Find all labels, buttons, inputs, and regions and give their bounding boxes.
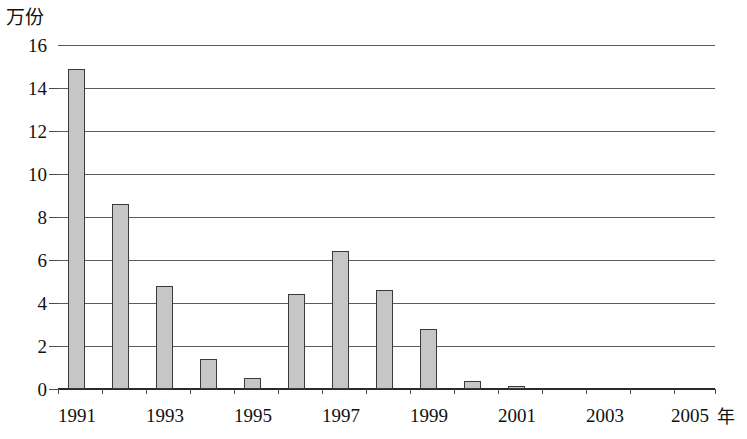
x-tick-label-1997: 1997 — [306, 405, 376, 427]
bar-1991 — [68, 69, 85, 389]
gridline-16 — [58, 45, 715, 46]
x-tick-mark-3 — [190, 389, 191, 394]
bar-1998 — [376, 290, 393, 389]
y-tick-label-14: 14 — [7, 79, 47, 98]
y-tick-mark-14 — [49, 88, 58, 89]
x-tick-mark-11 — [542, 389, 543, 394]
x-tick-mark-12 — [586, 389, 587, 394]
bar-2000 — [464, 381, 481, 389]
x-tick-label-2001: 2001 — [482, 405, 552, 427]
x-tick-mark-4 — [234, 389, 235, 394]
y-tick-mark-8 — [49, 217, 58, 218]
bar-1993 — [156, 286, 173, 389]
x-tick-mark-15 — [715, 389, 716, 394]
x-tick-label-1991: 1991 — [42, 405, 112, 427]
x-axis-unit-label: 年 — [717, 406, 735, 428]
bar-1992 — [112, 204, 129, 389]
x-tick-label-1995: 1995 — [218, 405, 288, 427]
y-tick-mark-12 — [49, 131, 58, 132]
x-tick-mark-7 — [366, 389, 367, 394]
x-tick-mark-0 — [58, 389, 59, 394]
x-tick-label-1993: 1993 — [130, 405, 200, 427]
bar-1996 — [288, 294, 305, 389]
x-tick-label-2003: 2003 — [570, 405, 640, 427]
x-tick-mark-10 — [498, 389, 499, 394]
plot-area — [58, 45, 715, 389]
x-tick-mark-2 — [146, 389, 147, 394]
bar-1994 — [200, 359, 217, 389]
gridline-12 — [58, 131, 715, 132]
bar-chart-figure: 万份 16 14 12 10 8 6 4 2 0 — [0, 0, 747, 439]
gridline-14 — [58, 88, 715, 89]
x-tick-label-2005: 2005 — [655, 405, 725, 427]
y-tick-label-8: 8 — [7, 208, 47, 227]
bar-1997 — [332, 251, 349, 389]
x-tick-mark-14 — [674, 389, 675, 394]
bar-1995 — [244, 378, 261, 389]
x-tick-label-1999: 1999 — [394, 405, 464, 427]
bar-2001 — [508, 386, 525, 389]
y-tick-label-16: 16 — [7, 36, 47, 55]
y-tick-mark-2 — [49, 346, 58, 347]
x-tick-mark-13 — [630, 389, 631, 394]
x-tick-mark-1 — [102, 389, 103, 394]
y-tick-label-4: 4 — [7, 294, 47, 313]
y-tick-label-12: 12 — [7, 122, 47, 141]
y-tick-mark-6 — [49, 260, 58, 261]
y-tick-mark-4 — [49, 303, 58, 304]
y-tick-label-10: 10 — [7, 165, 47, 184]
y-tick-label-0: 0 — [7, 380, 47, 399]
bar-1999 — [420, 329, 437, 389]
x-tick-mark-5 — [278, 389, 279, 394]
y-tick-label-6: 6 — [7, 251, 47, 270]
y-axis-unit-label: 万份 — [6, 6, 44, 28]
x-tick-mark-9 — [454, 389, 455, 394]
x-tick-mark-6 — [322, 389, 323, 394]
gridline-6 — [58, 260, 715, 261]
x-tick-mark-8 — [410, 389, 411, 394]
y-tick-label-2: 2 — [7, 337, 47, 356]
y-tick-mark-10 — [49, 174, 58, 175]
y-tick-mark-0 — [49, 389, 58, 390]
gridline-10 — [58, 174, 715, 175]
gridline-8 — [58, 217, 715, 218]
